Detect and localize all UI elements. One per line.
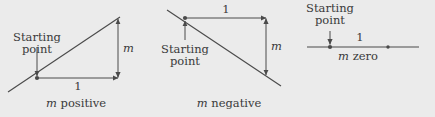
caption-m-positive: m positive	[46, 97, 106, 109]
starting-point-dot-positive	[35, 76, 39, 80]
caption-text: zero	[349, 49, 378, 63]
starting-point-label-negative: Starting point	[161, 43, 209, 68]
caption-math-symbol: m	[197, 96, 208, 110]
starting-point-dot-zero	[328, 45, 332, 49]
caption-text: negative	[208, 96, 262, 110]
run-label-negative: 1	[222, 3, 229, 15]
starting-point-line2: point	[13, 43, 61, 55]
caption-text: positive	[57, 96, 106, 110]
slope-illustration-figure: Starting point 1 m m positive Starting p…	[0, 0, 435, 117]
rise-label-negative: m	[271, 40, 282, 52]
caption-math-symbol: m	[338, 49, 349, 63]
starting-point-line2: point	[306, 14, 354, 26]
starting-point-dot-negative	[183, 16, 187, 20]
run-label-zero: 1	[356, 31, 363, 43]
starting-point-label-zero: Starting point	[306, 2, 354, 27]
unit-run-dot-zero	[386, 45, 389, 48]
caption-math-symbol: m	[46, 96, 57, 110]
caption-m-negative: m negative	[197, 97, 262, 109]
rise-label-positive: m	[123, 42, 134, 54]
run-label-positive: 1	[74, 80, 81, 92]
starting-point-label-positive: Starting point	[13, 31, 61, 56]
caption-m-zero: m zero	[338, 50, 378, 62]
starting-point-line2: point	[161, 55, 209, 67]
